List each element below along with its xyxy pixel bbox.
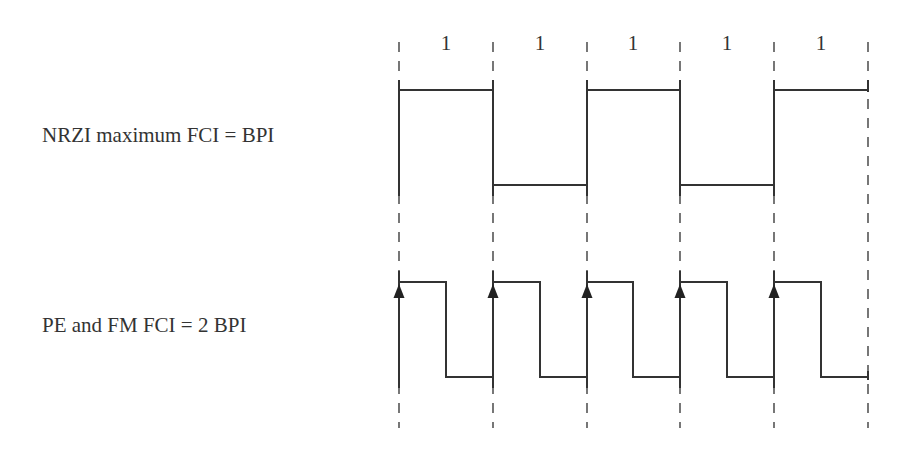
bit-label-4: 1 bbox=[816, 31, 827, 55]
pe-fm-waveform bbox=[399, 271, 868, 388]
arrow-up-icon bbox=[488, 284, 499, 298]
bit-label-3: 1 bbox=[722, 31, 733, 55]
nrzi-waveform bbox=[399, 80, 868, 196]
arrow-up-icon bbox=[394, 284, 405, 298]
bit-label-1: 1 bbox=[535, 31, 546, 55]
bit-label-2: 1 bbox=[628, 31, 639, 55]
arrow-up-icon bbox=[769, 284, 780, 298]
waveform-diagram: 1 1 1 1 1 bbox=[0, 0, 910, 454]
bit-labels: 1 1 1 1 1 bbox=[441, 31, 827, 55]
transition-arrows bbox=[394, 284, 780, 298]
arrow-up-icon bbox=[582, 284, 593, 298]
arrow-up-icon bbox=[675, 284, 686, 298]
bit-label-0: 1 bbox=[441, 31, 452, 55]
